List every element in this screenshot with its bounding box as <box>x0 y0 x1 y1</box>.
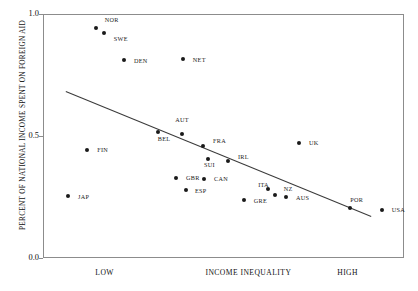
data-point-label: GBR <box>186 174 200 181</box>
data-point <box>66 194 70 198</box>
x-axis-label: HIGH <box>337 268 358 277</box>
data-point-label: IRL <box>238 153 249 160</box>
y-tick-label: 0.0 <box>13 253 39 262</box>
data-point <box>201 144 205 148</box>
data-point-label: USA <box>392 206 405 213</box>
x-axis-label: LOW <box>95 268 114 277</box>
y-tick-label: 1.0 <box>13 9 39 18</box>
data-point <box>180 132 184 136</box>
data-point-label: NZ <box>284 185 293 192</box>
data-point-label: GRE <box>254 197 267 204</box>
y-tick-mark <box>39 258 43 259</box>
data-point <box>226 159 230 163</box>
y-tick-label: 0.5 <box>13 131 39 140</box>
data-point <box>242 198 246 202</box>
data-point-label: SUI <box>204 161 215 168</box>
y-tick-mark <box>39 14 43 15</box>
data-point-label: JAP <box>78 193 89 200</box>
chart-canvas: PERCENT OF NATIONAL INCOME SPENT ON FORE… <box>0 0 418 291</box>
data-point-label: AUS <box>296 194 309 201</box>
data-point <box>156 130 160 134</box>
data-point-label: CAN <box>214 175 228 182</box>
data-point-label: BEL <box>158 135 171 142</box>
data-point-label: NET <box>193 56 206 63</box>
y-tick-mark <box>39 136 43 137</box>
data-point-label: NOR <box>105 16 119 23</box>
data-point-label: POR <box>350 196 363 203</box>
data-point <box>102 31 106 35</box>
data-point <box>94 26 98 30</box>
data-point-label: SWE <box>114 35 128 42</box>
data-point-label: ITA <box>258 181 269 188</box>
y-axis-title: PERCENT OF NATIONAL INCOME SPENT ON FORE… <box>19 10 27 240</box>
data-point-label: UK <box>309 139 319 146</box>
data-point-label: AUT <box>175 116 189 123</box>
data-point <box>297 141 301 145</box>
data-point-label: FIN <box>97 146 108 153</box>
data-point-label: DEN <box>134 57 148 64</box>
x-axis-label: INCOME INEQUALITY <box>205 268 291 277</box>
data-point-label: ESP <box>195 187 207 194</box>
data-point <box>284 195 288 199</box>
data-point-label: FRA <box>213 137 226 144</box>
data-point <box>380 208 384 212</box>
